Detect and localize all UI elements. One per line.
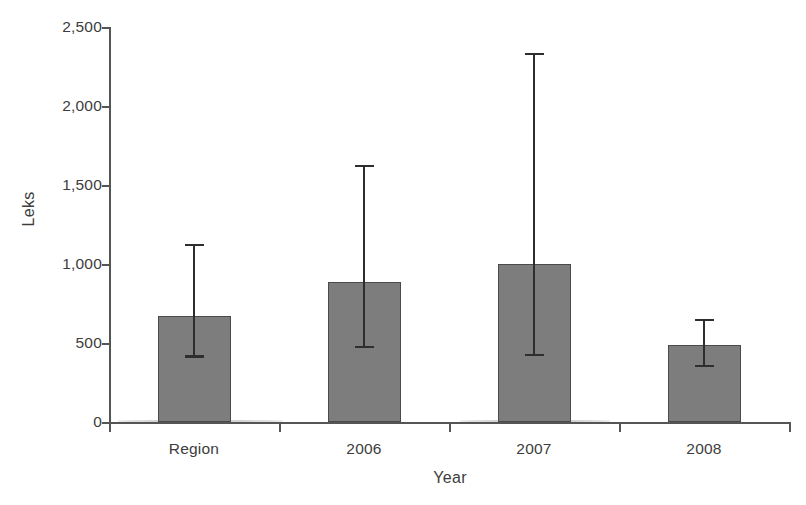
error-bar-stem-region <box>193 245 195 356</box>
y-tick-1500 <box>102 185 110 187</box>
error-bar-cap-upper-2008 <box>695 319 714 321</box>
error-bar-cap-upper-region <box>185 244 204 246</box>
y-axis-line <box>109 27 111 423</box>
bar-chart: 2,500 2,000 1,500 1,000 500 0 Region 200… <box>0 0 806 505</box>
error-bar-cap-upper-2007 <box>525 53 544 55</box>
y-tick-1000 <box>102 264 110 266</box>
error-bar-stem-2008 <box>703 320 705 366</box>
error-bar-cap-lower-2007 <box>525 354 544 356</box>
y-tick-2500 <box>102 27 110 29</box>
x-tick-label-region: Region <box>109 440 279 458</box>
x-tick-0 <box>109 423 111 432</box>
x-tick-label-2008: 2008 <box>619 440 789 458</box>
y-tick-label-500: 500 <box>32 334 102 352</box>
x-tick-3 <box>619 423 621 432</box>
y-tick-2000 <box>102 106 110 108</box>
y-tick-label-0: 0 <box>32 413 102 431</box>
y-tick-label-2000: 2,000 <box>32 97 102 115</box>
error-bar-cap-lower-region <box>185 355 204 357</box>
error-bar-stem-2007 <box>533 54 535 355</box>
x-tick-4 <box>789 423 791 432</box>
y-tick-500 <box>102 343 110 345</box>
error-bar-stem-2006 <box>363 166 365 347</box>
x-tick-2 <box>449 423 451 432</box>
x-tick-label-2007: 2007 <box>449 440 619 458</box>
error-bar-cap-lower-2008 <box>695 365 714 367</box>
y-tick-label-1500: 1,500 <box>32 176 102 194</box>
x-tick-label-2006: 2006 <box>279 440 449 458</box>
y-tick-label-1000: 1,000 <box>32 255 102 273</box>
error-bar-cap-upper-2006 <box>355 165 374 167</box>
y-axis-title: Leks <box>20 161 38 257</box>
y-tick-label-2500: 2,500 <box>32 18 102 36</box>
x-axis-title: Year <box>109 469 791 487</box>
x-tick-1 <box>279 423 281 432</box>
error-bar-cap-lower-2006 <box>355 346 374 348</box>
